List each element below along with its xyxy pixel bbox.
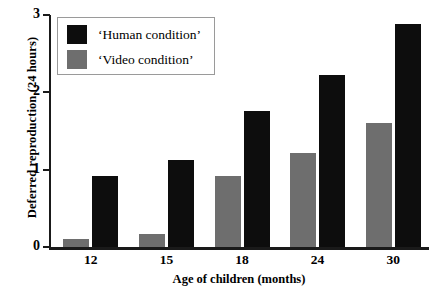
y-axis-tick-label: 1 — [26, 162, 40, 176]
x-axis-tick-label-30: 30 — [373, 252, 413, 268]
bar-human-12 — [92, 176, 118, 247]
bar-human-15 — [168, 160, 194, 247]
legend-item-human: ‘Human condition’ — [67, 23, 214, 46]
x-axis-tick-label-15: 15 — [146, 252, 186, 268]
x-axis-tick-label-24: 24 — [298, 252, 338, 268]
legend-item-video: ‘Video condition’ — [67, 48, 214, 71]
legend-label: ‘Video condition’ — [98, 52, 194, 68]
y-axis-tick-label-text: 2 — [26, 84, 40, 98]
y-axis-tick-2 — [43, 91, 50, 93]
x-axis-tick-label-18: 18 — [222, 252, 262, 268]
legend-swatch-icon — [67, 25, 87, 44]
x-axis-title: Age of children (months) — [49, 272, 429, 287]
bar-human-18 — [244, 111, 270, 247]
legend-swatch-icon — [67, 50, 87, 69]
y-axis-tick-3 — [43, 14, 50, 16]
y-axis-title: Deferred reproduction (24 hours) — [25, 3, 40, 253]
y-axis-tick-label: 3 — [26, 7, 40, 21]
bar-human-30 — [395, 24, 421, 247]
bar-video-15 — [139, 234, 165, 247]
bar-video-30 — [366, 123, 392, 247]
bar-video-24 — [290, 153, 316, 247]
y-axis-tick-1 — [43, 169, 50, 171]
legend: ‘Human condition’‘Video condition’ — [57, 17, 215, 75]
x-axis-line — [49, 247, 429, 250]
bar-human-24 — [319, 75, 345, 247]
y-axis-tick-label: 0 — [26, 239, 40, 253]
x-axis-tick-label-12: 12 — [71, 252, 111, 268]
bar-chart-figure: Deferred reproduction (24 hours) 0123 12… — [0, 0, 433, 296]
bar-video-12 — [63, 239, 89, 247]
y-axis-tick-label-text: 0 — [26, 239, 40, 253]
y-axis-tick-label: 2 — [26, 84, 40, 98]
legend-label: ‘Human condition’ — [98, 27, 201, 43]
y-axis-tick-label-text: 3 — [26, 7, 40, 21]
bar-video-18 — [215, 176, 241, 247]
y-axis-tick-label-text: 1 — [26, 162, 40, 176]
